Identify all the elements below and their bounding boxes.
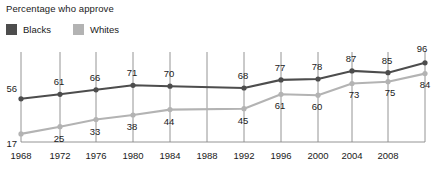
x-axis-tick-label: 1996 — [270, 150, 291, 161]
x-axis-tick-label: 2008 — [377, 150, 398, 161]
data-point-marker — [167, 84, 172, 89]
data-point-marker — [93, 117, 98, 122]
data-point-marker — [18, 96, 23, 101]
data-point-marker — [315, 76, 320, 81]
data-point-label: 25 — [54, 133, 65, 144]
data-point-marker — [385, 79, 390, 84]
data-point-marker — [422, 71, 427, 76]
data-point-marker — [278, 92, 283, 97]
data-point-label: 45 — [238, 115, 249, 126]
series-line-whites — [21, 74, 425, 134]
data-point-marker — [57, 92, 62, 97]
x-axis-tick-label: 1972 — [49, 150, 70, 161]
data-point-label: 70 — [164, 68, 175, 79]
data-point-label: 60 — [312, 101, 323, 112]
data-point-label: 66 — [90, 72, 101, 83]
data-point-label: 17 — [6, 138, 17, 149]
series-line-blacks — [21, 63, 425, 99]
data-point-label: 61 — [54, 76, 65, 87]
data-point-marker — [349, 68, 354, 73]
data-point-label: 87 — [346, 53, 357, 64]
data-point-label: 38 — [127, 121, 138, 132]
data-point-label: 56 — [6, 83, 17, 94]
data-point-marker — [167, 107, 172, 112]
data-point-marker — [18, 131, 23, 136]
data-point-marker — [93, 87, 98, 92]
x-axis-tick-labels: 1968197219761980198419881992199620002004… — [0, 150, 441, 166]
approval-line-chart: Percentage who approve Blacks Whites 566… — [0, 0, 441, 172]
data-point-label: 33 — [90, 126, 101, 137]
data-point-marker — [422, 60, 427, 65]
data-point-label: 61 — [275, 100, 286, 111]
data-point-marker — [385, 70, 390, 75]
x-axis-tick-label: 2000 — [307, 150, 328, 161]
data-point-label: 85 — [382, 55, 393, 66]
x-axis-tick-label: 1992 — [233, 150, 254, 161]
x-axis-tick-label: 1968 — [10, 150, 31, 161]
data-point-label: 73 — [349, 89, 360, 100]
x-axis-tick-label: 1980 — [122, 150, 143, 161]
data-point-marker — [57, 124, 62, 129]
data-point-label: 78 — [312, 61, 323, 72]
data-point-label: 71 — [127, 67, 138, 78]
x-axis-tick-label: 1976 — [85, 150, 106, 161]
data-point-label: 77 — [275, 62, 286, 73]
data-point-label: 44 — [164, 116, 175, 127]
data-point-marker — [241, 85, 246, 90]
data-point-label: 96 — [417, 43, 428, 54]
plot-area: 5661667170687778878596172533384445616073… — [0, 0, 441, 150]
data-point-marker — [130, 112, 135, 117]
data-point-label: 84 — [420, 79, 431, 90]
data-point-marker — [315, 93, 320, 98]
data-point-marker — [349, 81, 354, 86]
data-point-marker — [241, 106, 246, 111]
data-point-label: 75 — [385, 87, 396, 98]
data-point-label: 68 — [238, 70, 249, 81]
x-axis-tick-label: 1988 — [196, 150, 217, 161]
data-point-marker — [278, 77, 283, 82]
x-axis-tick-label: 2004 — [341, 150, 362, 161]
x-axis-tick-label: 1984 — [159, 150, 180, 161]
data-point-marker — [130, 83, 135, 88]
